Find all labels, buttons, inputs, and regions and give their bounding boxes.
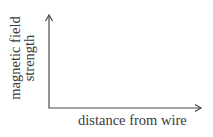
y-axis-label-line1: magnetic field [8,16,22,99]
y-axis-label-line2: strength [22,16,36,99]
x-axis-label: distance from wire [78,112,187,129]
y-axis-label: magnetic field strength [2,8,42,108]
